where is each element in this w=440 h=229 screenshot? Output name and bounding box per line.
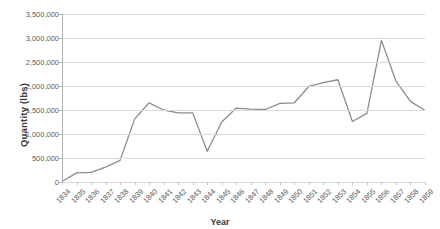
x-tick-mark (62, 182, 63, 185)
x-tick-mark (396, 182, 397, 185)
gridline (62, 14, 425, 15)
x-tick-mark (367, 182, 368, 185)
x-tick-mark (309, 182, 310, 185)
gridline (62, 38, 425, 39)
gridline (62, 158, 425, 159)
gridline (62, 134, 425, 135)
x-tick-mark (323, 182, 324, 185)
x-tick-mark (381, 182, 382, 185)
x-tick-mark (294, 182, 295, 185)
line-chart: Quantity (lbs) Year 0500,0001,000,0001,5… (0, 0, 440, 229)
x-tick-mark (207, 182, 208, 185)
y-tick-label: 1,000,000 (26, 130, 62, 139)
gridline (62, 182, 425, 183)
x-tick-mark (280, 182, 281, 185)
x-tick-mark (77, 182, 78, 185)
y-tick-label: 1,500,000 (26, 106, 62, 115)
x-tick-mark (149, 182, 150, 185)
y-tick-label: 2,000,000 (26, 82, 62, 91)
x-axis-title: Year (0, 217, 440, 227)
x-tick-mark (222, 182, 223, 185)
y-axis-ticks: 0500,0001,000,0001,500,0002,000,0002,500… (0, 0, 62, 229)
x-tick-mark (135, 182, 136, 185)
x-tick-mark (352, 182, 353, 185)
x-tick-mark (106, 182, 107, 185)
x-tick-mark (178, 182, 179, 185)
x-tick-mark (164, 182, 165, 185)
y-tick-label: 2,500,000 (26, 58, 62, 67)
y-tick-label: 500,000 (32, 154, 62, 163)
y-axis-line (62, 14, 63, 182)
x-tick-mark (265, 182, 266, 185)
x-tick-mark (236, 182, 237, 185)
x-tick-mark (410, 182, 411, 185)
y-tick-label: 3,500,000 (26, 10, 62, 19)
y-tick-label: 3,000,000 (26, 34, 62, 43)
plot-area (62, 14, 425, 182)
x-tick-mark (425, 182, 426, 185)
gridline (62, 110, 425, 111)
x-tick-mark (193, 182, 194, 185)
gridline (62, 86, 425, 87)
x-tick-mark (338, 182, 339, 185)
x-tick-mark (120, 182, 121, 185)
gridline (62, 62, 425, 63)
x-tick-mark (91, 182, 92, 185)
data-series-line (62, 14, 425, 182)
x-tick-mark (251, 182, 252, 185)
